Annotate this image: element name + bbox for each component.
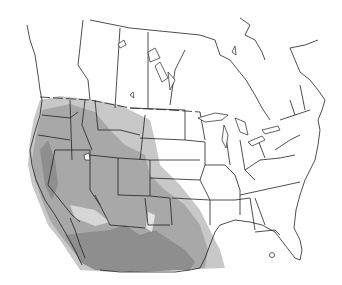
lake-okeechobee <box>270 253 275 258</box>
great-lakes <box>198 113 280 148</box>
range-map <box>0 0 342 285</box>
